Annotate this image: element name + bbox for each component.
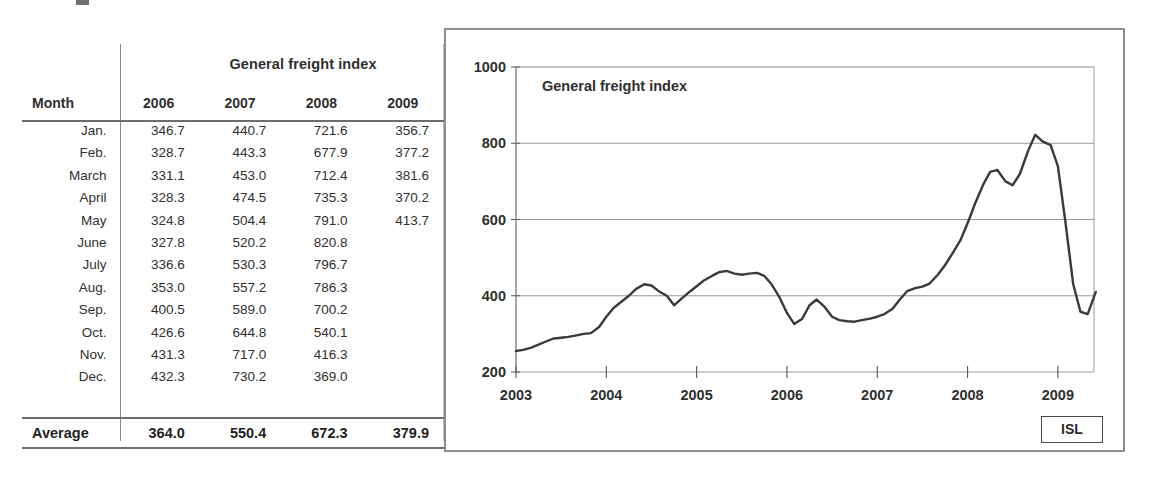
data-series-line — [516, 135, 1096, 351]
cell-2007: 589.0 — [202, 299, 283, 321]
cell-2008: 791.0 — [283, 210, 364, 232]
row-month-label: April — [22, 187, 120, 209]
cell-2006: 353.0 — [120, 277, 201, 299]
table-row: Dec. 432.3 730.2 369.0 — [22, 366, 446, 388]
cell-2007: 530.3 — [202, 254, 283, 276]
cell-2009 — [365, 322, 446, 344]
cell-2008: 677.9 — [283, 142, 364, 164]
cell-2009 — [365, 299, 446, 321]
row-month-label: May — [22, 210, 120, 232]
y-tick-label: 400 — [482, 288, 506, 304]
cell-2009 — [365, 254, 446, 276]
cell-2009: 381.6 — [365, 165, 446, 187]
freight-index-table: Month 2006 2007 2008 2009 Jan. 346.7 440… — [22, 86, 446, 389]
table-row: March 331.1 453.0 712.4 381.6 — [22, 165, 446, 187]
cell-2006: 431.3 — [120, 344, 201, 366]
cell-2008: 820.8 — [283, 232, 364, 254]
average-2006: 364.0 — [120, 420, 201, 447]
table-bottom-rule — [22, 447, 446, 449]
table-row: Nov. 431.3 717.0 416.3 — [22, 344, 446, 366]
cell-2006: 432.3 — [120, 366, 201, 388]
chart-title: General freight index — [542, 78, 687, 94]
header-year-2008: 2008 — [283, 86, 364, 120]
average-label: Average — [22, 420, 120, 447]
x-tick-label: 2008 — [951, 387, 983, 403]
row-month-label: Jan. — [22, 120, 120, 142]
header-month: Month — [22, 86, 120, 120]
cell-2009: 370.2 — [365, 187, 446, 209]
y-tick-label: 1000 — [474, 59, 506, 75]
cell-2007: 440.7 — [202, 120, 283, 142]
cell-2006: 327.8 — [120, 232, 201, 254]
cell-2006: 426.6 — [120, 322, 201, 344]
cell-2006: 331.1 — [120, 165, 201, 187]
x-tick-label: 2007 — [861, 387, 893, 403]
header-year-2006: 2006 — [120, 86, 201, 120]
cell-2007: 453.0 — [202, 165, 283, 187]
freight-index-chart-panel: 2004006008001000200320042005200620072008… — [444, 28, 1125, 452]
cell-2007: 474.5 — [202, 187, 283, 209]
average-2009: 379.9 — [365, 420, 446, 447]
cell-2008: 796.7 — [283, 254, 364, 276]
y-tick-label: 200 — [482, 364, 506, 380]
cell-2007: 730.2 — [202, 366, 283, 388]
cell-2007: 717.0 — [202, 344, 283, 366]
table-row: Oct. 426.6 644.8 540.1 — [22, 322, 446, 344]
cell-2008: 735.3 — [283, 187, 364, 209]
cell-2006: 324.8 — [120, 210, 201, 232]
row-month-label: Dec. — [22, 366, 120, 388]
row-month-label: Feb. — [22, 142, 120, 164]
cell-2008: 416.3 — [283, 344, 364, 366]
cell-2007: 504.4 — [202, 210, 283, 232]
row-month-label: March — [22, 165, 120, 187]
cell-2006: 336.6 — [120, 254, 201, 276]
table-row: July 336.6 530.3 796.7 — [22, 254, 446, 276]
table-title: General freight index — [142, 56, 464, 72]
cell-2006: 328.7 — [120, 142, 201, 164]
x-tick-label: 2004 — [590, 387, 622, 403]
cell-2009 — [365, 366, 446, 388]
header-year-2009: 2009 — [365, 86, 446, 120]
source-badge-isl: ISL — [1041, 416, 1103, 443]
cell-2009: 377.2 — [365, 142, 446, 164]
cell-2006: 400.5 — [120, 299, 201, 321]
cell-2008: 712.4 — [283, 165, 364, 187]
cell-2009 — [365, 277, 446, 299]
freight-index-table-panel: General freight index Month 2006 2007 20… — [22, 20, 446, 452]
average-2008: 672.3 — [283, 420, 364, 447]
header-year-2007: 2007 — [202, 86, 283, 120]
x-tick-label: 2003 — [500, 387, 532, 403]
scan-artifact — [76, 0, 89, 5]
cell-2009: 356.7 — [365, 120, 446, 142]
table-row: Jan. 346.7 440.7 721.6 356.7 — [22, 120, 446, 142]
average-2007: 550.4 — [202, 420, 283, 447]
row-month-label: Sep. — [22, 299, 120, 321]
y-tick-label: 800 — [482, 135, 506, 151]
cell-2008: 540.1 — [283, 322, 364, 344]
x-tick-label: 2006 — [771, 387, 803, 403]
x-tick-label: 2005 — [680, 387, 712, 403]
table-row: Feb. 328.7 443.3 677.9 377.2 — [22, 142, 446, 164]
table-row: April 328.3 474.5 735.3 370.2 — [22, 187, 446, 209]
table-average-rule — [22, 417, 446, 419]
row-month-label: Oct. — [22, 322, 120, 344]
cell-2007: 443.3 — [202, 142, 283, 164]
row-month-label: June — [22, 232, 120, 254]
cell-2009: 413.7 — [365, 210, 446, 232]
cell-2006: 328.3 — [120, 187, 201, 209]
cell-2008: 369.0 — [283, 366, 364, 388]
cell-2007: 644.8 — [202, 322, 283, 344]
row-month-label: Aug. — [22, 277, 120, 299]
row-month-label: July — [22, 254, 120, 276]
cell-2009 — [365, 344, 446, 366]
row-month-label: Nov. — [22, 344, 120, 366]
cell-2008: 786.3 — [283, 277, 364, 299]
table-row: May 324.8 504.4 791.0 413.7 — [22, 210, 446, 232]
cell-2009 — [365, 232, 446, 254]
table-header-row: Month 2006 2007 2008 2009 — [22, 86, 446, 120]
table-row: June 327.8 520.2 820.8 — [22, 232, 446, 254]
cell-2007: 557.2 — [202, 277, 283, 299]
cell-2007: 520.2 — [202, 232, 283, 254]
y-tick-label: 600 — [482, 212, 506, 228]
table-row: Aug. 353.0 557.2 786.3 — [22, 277, 446, 299]
